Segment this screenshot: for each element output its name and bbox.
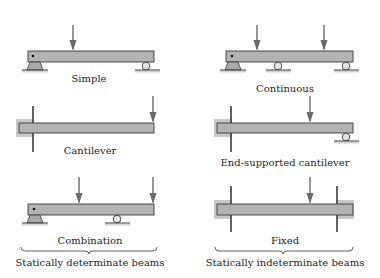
group-label-determinate: Statically determinate beams: [16, 257, 165, 268]
brace-determinate: [21, 247, 157, 254]
cantilever-beam-diagram: Cantilever: [16, 96, 157, 156]
roller-support-icon: [135, 62, 160, 74]
pin-point-icon: [231, 55, 234, 58]
beam-label-cantilever: Cantilever: [64, 145, 117, 156]
roller-support-icon: [105, 215, 130, 227]
load-arrow-icon: [76, 177, 83, 204]
beam-types-diagram: Simple Continuous: [0, 0, 380, 278]
end-supported-cantilever-diagram: End-supported cantilever: [214, 96, 359, 168]
beam: [19, 123, 154, 133]
beam-label-continuous: Continuous: [256, 83, 314, 94]
beam: [28, 204, 154, 215]
continuous-beam-diagram: Continuous: [220, 25, 359, 94]
fixed-beam-diagram: Fixed: [214, 177, 354, 246]
combination-beam-diagram: Combination: [22, 177, 157, 246]
beam-label-simple: Simple: [71, 73, 106, 84]
brace-indeterminate: [215, 247, 353, 254]
beam: [217, 204, 353, 215]
beam-label-combination: Combination: [58, 235, 123, 246]
group-label-indeterminate: Statically indeterminate beams: [206, 257, 365, 268]
beam: [226, 51, 353, 62]
beam-label-fixed: Fixed: [271, 235, 300, 246]
pin-support-icon: [220, 62, 246, 75]
roller-support-icon: [334, 133, 359, 145]
beam: [28, 51, 154, 62]
roller-support-icon: [266, 62, 291, 74]
pin-point-icon: [32, 55, 35, 58]
load-arrow-icon: [307, 96, 314, 123]
load-arrow-icon: [150, 177, 157, 204]
pin-point-icon: [33, 208, 36, 211]
pin-support-icon: [22, 215, 48, 228]
simple-beam-diagram: Simple: [22, 25, 160, 84]
beam: [217, 123, 353, 133]
load-arrow-icon: [321, 25, 328, 51]
load-arrow-icon: [70, 25, 77, 51]
beam-label-end-supported-cantilever: End-supported cantilever: [221, 157, 350, 168]
pin-support-icon: [22, 62, 48, 75]
load-arrow-icon: [150, 96, 157, 123]
roller-support-icon: [334, 62, 359, 74]
load-arrow-icon: [307, 177, 314, 204]
load-arrow-icon: [254, 25, 261, 51]
